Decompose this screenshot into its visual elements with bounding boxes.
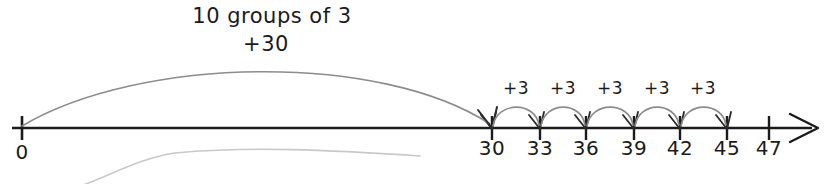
tick-label-42: 42	[667, 136, 693, 160]
big-jump-value-label: +30	[243, 32, 289, 56]
jump-arc	[493, 107, 539, 126]
jump-arc	[541, 107, 585, 126]
big-jump-title: 10 groups of 3	[192, 4, 351, 28]
step-label-1: +3	[503, 78, 529, 98]
jump-arc	[635, 107, 679, 126]
jump-arc	[587, 107, 633, 126]
number-line-worksheet: 10 groups of 3 +30 0 30333639424547 +3+3…	[0, 0, 827, 184]
tick-label-45: 45	[714, 136, 740, 160]
tick-label-39: 39	[621, 136, 647, 160]
tick-label-47: 47	[756, 136, 782, 160]
tick-label-33: 33	[527, 136, 553, 160]
tick-arrow-icon	[716, 112, 731, 129]
big-jump-arc	[22, 72, 497, 128]
tick-label-30: 30	[479, 136, 505, 160]
small-jump-arcs	[493, 107, 726, 126]
number-line-axis	[12, 114, 818, 142]
step-label-2: +3	[550, 78, 576, 98]
step-label-5: +3	[690, 78, 716, 98]
jump-arc	[681, 107, 726, 126]
tick-label-origin: 0	[15, 140, 28, 164]
step-label-4: +3	[644, 78, 670, 98]
tick-label-36: 36	[573, 136, 599, 160]
step-label-3: +3	[597, 78, 623, 98]
faint-background-arc	[70, 149, 420, 184]
